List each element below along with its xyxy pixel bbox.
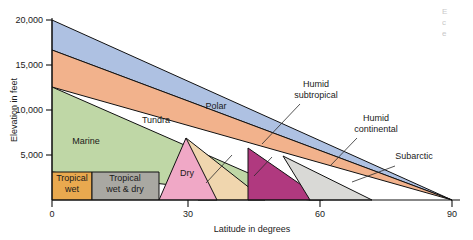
xtick-label-90: 90 (447, 209, 457, 219)
climate-zone-diagram: 20,000 15,000 10,000 5,000 0 30 60 90 El… (0, 0, 473, 240)
band-label-humid-subtropical-line2: subtropical (294, 90, 338, 100)
caption-line-3: e (442, 28, 472, 39)
band-label-tropical-wet-line1: Tropical (56, 173, 88, 183)
band-label-humid-subtropical-line1: Humid (303, 79, 329, 89)
ytick-label-5000: 5,000 (0, 150, 43, 160)
ytick-label-15000: 15,000 (0, 60, 43, 70)
band-label-polar: Polar (205, 101, 226, 111)
xtick-label-60: 60 (315, 209, 325, 219)
band-label-tropical-wet-line2: wet (65, 184, 79, 194)
band-label-humid-continental-line2: continental (354, 124, 398, 134)
xtick-label-0: 0 (49, 209, 54, 219)
x-axis-title: Latitude in degrees (214, 224, 291, 234)
clipped-caption-fragment: E c e (442, 6, 472, 39)
band-label-tundra: Tundra (142, 115, 170, 125)
xtick-label-30: 30 (183, 209, 193, 219)
band-label-tropical-wet-dry-line2: wet & dry (106, 184, 144, 194)
diagram-canvas (0, 0, 473, 240)
band-label-dry: Dry (180, 168, 194, 178)
ytick-label-10000: 10,000 (0, 105, 43, 115)
caption-line-2: c (442, 17, 472, 28)
band-label-humid-continental-line1: Humid (363, 113, 389, 123)
ytick-label-20000: 20,000 (0, 15, 43, 25)
y-axis-title: Elevation in feet (9, 75, 19, 145)
caption-line-1: E (442, 6, 472, 17)
band-label-subarctic: Subarctic (395, 151, 433, 161)
band-label-marine: Marine (72, 136, 100, 146)
band-label-tropical-wet-dry-line1: Tropical (109, 173, 141, 183)
